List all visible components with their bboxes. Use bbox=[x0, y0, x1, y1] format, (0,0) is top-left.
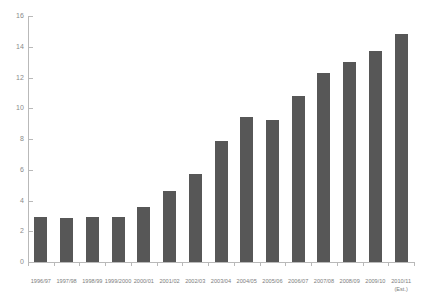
y-axis-tick-label-wrap: 2 bbox=[0, 231, 24, 232]
x-axis-tick bbox=[388, 262, 389, 266]
bar bbox=[395, 34, 408, 262]
x-axis-tick bbox=[234, 262, 235, 266]
x-axis-tick bbox=[28, 262, 29, 266]
x-axis-tick bbox=[105, 262, 106, 266]
x-axis-tick bbox=[414, 262, 415, 266]
y-axis-tick-label-wrap: 10 bbox=[0, 108, 24, 109]
bar bbox=[163, 191, 176, 262]
y-axis-tick-label-wrap: 6 bbox=[0, 170, 24, 171]
x-axis-tick-label: 2010/11 (Est.) bbox=[386, 277, 416, 293]
x-axis-line bbox=[28, 262, 414, 263]
y-axis-tick-label-wrap: 8 bbox=[0, 139, 24, 140]
x-axis-tick bbox=[311, 262, 312, 266]
y-axis-tick bbox=[28, 231, 33, 232]
y-axis-tick bbox=[28, 78, 33, 79]
y-axis-tick-label: 4 bbox=[2, 197, 24, 204]
y-axis-tick-label: 12 bbox=[2, 74, 24, 81]
bar bbox=[343, 62, 356, 262]
y-axis-tick-label: 16 bbox=[2, 12, 24, 19]
y-axis-tick-label-wrap: 4 bbox=[0, 201, 24, 202]
bar bbox=[189, 174, 202, 262]
y-axis-tick-label-wrap: 0 bbox=[0, 262, 24, 263]
y-axis-tick bbox=[28, 170, 33, 171]
y-axis-tick-label: 10 bbox=[2, 104, 24, 111]
bar bbox=[240, 117, 253, 262]
bar bbox=[137, 207, 150, 262]
y-axis-tick-label: 0 bbox=[2, 258, 24, 265]
y-axis-tick-label: 8 bbox=[2, 135, 24, 142]
bar bbox=[112, 217, 125, 262]
y-axis-tick-label: 14 bbox=[2, 43, 24, 50]
y-axis-tick bbox=[28, 108, 33, 109]
bar bbox=[60, 218, 73, 262]
x-axis-tick bbox=[260, 262, 261, 266]
y-axis-tick bbox=[28, 16, 33, 17]
bar bbox=[266, 120, 279, 262]
x-axis-tick bbox=[363, 262, 364, 266]
x-axis-tick bbox=[208, 262, 209, 266]
y-axis-tick bbox=[28, 47, 33, 48]
y-axis-tick-label-wrap: 14 bbox=[0, 47, 24, 48]
x-axis-tick bbox=[285, 262, 286, 266]
bar bbox=[369, 51, 382, 262]
y-axis-tick-label: 6 bbox=[2, 166, 24, 173]
bar bbox=[292, 96, 305, 262]
y-axis-tick-label: 2 bbox=[2, 227, 24, 234]
x-axis-tick bbox=[337, 262, 338, 266]
y-axis-tick bbox=[28, 139, 33, 140]
y-axis-tick bbox=[28, 201, 33, 202]
x-axis-tick bbox=[131, 262, 132, 266]
bar bbox=[86, 217, 99, 262]
bar-chart: 0246810121416 1996/971997/981998/991999/… bbox=[0, 0, 422, 305]
x-axis-tick bbox=[157, 262, 158, 266]
x-axis-tick bbox=[182, 262, 183, 266]
y-axis-tick-label-wrap: 12 bbox=[0, 78, 24, 79]
x-axis-tick bbox=[54, 262, 55, 266]
bar bbox=[317, 73, 330, 262]
bar bbox=[34, 217, 47, 262]
bar bbox=[215, 141, 228, 262]
x-axis-tick bbox=[79, 262, 80, 266]
y-axis-tick-label-wrap: 16 bbox=[0, 16, 24, 17]
